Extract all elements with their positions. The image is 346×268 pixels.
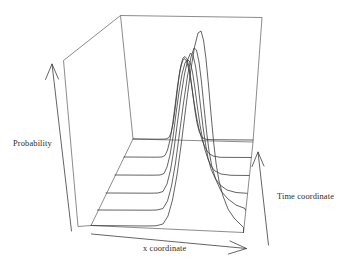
frame-left-outer-edge xyxy=(64,61,79,227)
wave-path-2 xyxy=(124,59,251,158)
wave-path-1 xyxy=(133,57,253,141)
wave-trace-6 xyxy=(91,31,244,233)
wave-trace-3 xyxy=(115,60,249,176)
frame-back-left-edge xyxy=(121,16,134,140)
x-axis-label: x coordinate xyxy=(143,245,186,253)
frame-floor-left-edge xyxy=(91,139,133,226)
arrow-up-icon-shaft xyxy=(52,64,72,231)
frame-top-edge xyxy=(121,16,263,18)
wave-path-3 xyxy=(115,60,249,176)
probability-axis-label: Probability xyxy=(13,140,52,148)
waterfall-figure: .ln{fill:none;stroke:#4a4a4a;stroke-widt… xyxy=(0,0,346,268)
wave-trace-4 xyxy=(106,53,247,193)
time-arrow-up-icon-shaft xyxy=(258,152,269,245)
frame-back-right-edge xyxy=(253,18,262,143)
plot-canvas: .ln{fill:none;stroke:#4a4a4a;stroke-widt… xyxy=(0,0,346,268)
wave-trace-2 xyxy=(124,59,251,158)
frame-left-panel-bottom xyxy=(78,226,91,227)
wave-path-4 xyxy=(106,53,247,193)
frame-left-top-edge xyxy=(64,16,121,61)
wave-trace-1 xyxy=(133,57,253,141)
wave-path-6 xyxy=(91,31,244,233)
time-axis-arrow xyxy=(252,152,269,245)
frame-floor-right-edge xyxy=(244,142,254,233)
frame-floor-front-edge xyxy=(91,226,244,233)
time-axis-label: Time coordinate xyxy=(277,193,334,201)
plot-frame xyxy=(64,16,263,233)
